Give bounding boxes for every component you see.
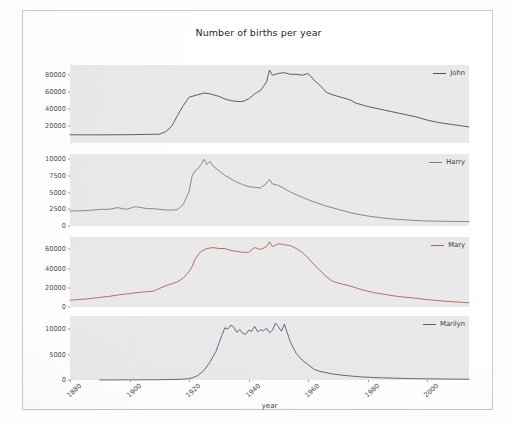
- legend-mary[interactable]: Mary: [431, 241, 465, 249]
- y-tick-label: 10000: [45, 325, 66, 333]
- x-axis-label: year: [70, 402, 469, 410]
- y-tick-label: 40000: [45, 105, 66, 113]
- y-tick-mark: [68, 192, 70, 193]
- legend-label-marilyn: Marilyn: [440, 320, 465, 328]
- y-tick-mark: [68, 226, 70, 227]
- y-tick-label: 80000: [45, 71, 66, 79]
- y-tick-label: 0: [62, 376, 66, 384]
- legend-marilyn[interactable]: Marilyn: [423, 320, 465, 328]
- y-tick-mark: [68, 92, 70, 93]
- y-tick-label: 20000: [45, 284, 66, 292]
- line-path: [70, 70, 469, 135]
- y-tick-mark: [68, 354, 70, 355]
- x-tick-label: 1980: [363, 382, 381, 399]
- x-tick-label: 1920: [184, 382, 202, 399]
- line-path: [100, 323, 469, 380]
- x-axis: year 1880190019201940196019802000: [70, 380, 469, 410]
- chart-title: Number of births per year: [23, 27, 494, 38]
- x-tick-mark: [70, 380, 71, 382]
- y-tick-label: 10000: [45, 155, 66, 163]
- x-tick-mark: [249, 380, 250, 382]
- y-tick-label: 40000: [45, 265, 66, 273]
- screenshot-root: Number of births per year John 200004000…: [0, 0, 515, 423]
- series-line-mary: [70, 237, 469, 307]
- y-tick-label: 5000: [49, 351, 66, 359]
- legend-label-mary: Mary: [448, 241, 465, 249]
- x-tick-mark: [308, 380, 309, 382]
- y-tick-mark: [68, 307, 70, 308]
- y-tick-mark: [68, 159, 70, 160]
- series-line-marilyn: [70, 316, 469, 380]
- y-tick-mark: [68, 176, 70, 177]
- y-tick-label: 7500: [49, 172, 66, 180]
- legend-harry[interactable]: Harry: [429, 158, 465, 166]
- legend-swatch-marilyn: [423, 324, 436, 325]
- legend-label-john: John: [450, 69, 465, 77]
- x-tick-label: 1960: [304, 382, 322, 399]
- line-path: [70, 159, 469, 221]
- x-tick-mark: [427, 380, 428, 382]
- legend-john[interactable]: John: [433, 69, 465, 77]
- x-tick-label: 1900: [125, 382, 143, 399]
- legend-swatch-harry: [429, 162, 442, 163]
- panel-mary: Mary 0200004000060000: [70, 237, 469, 307]
- y-tick-mark: [68, 329, 70, 330]
- figure-card: Number of births per year John 200004000…: [22, 10, 493, 410]
- y-tick-mark: [68, 126, 70, 127]
- y-tick-label: 20000: [45, 122, 66, 130]
- y-tick-mark: [68, 268, 70, 269]
- y-tick-label: 0: [62, 303, 66, 311]
- y-tick-mark: [68, 249, 70, 250]
- births-figure: Number of births per year John 200004000…: [23, 11, 494, 411]
- y-tick-label: 0: [62, 222, 66, 230]
- line-path: [70, 242, 469, 303]
- y-tick-mark: [68, 75, 70, 76]
- legend-label-harry: Harry: [446, 158, 465, 166]
- series-line-john: [70, 65, 469, 143]
- y-tick-label: 2500: [49, 205, 66, 213]
- x-tick-mark: [368, 380, 369, 382]
- y-tick-mark: [68, 109, 70, 110]
- series-line-harry: [70, 154, 469, 226]
- x-tick-mark: [130, 380, 131, 382]
- x-tick-mark: [189, 380, 190, 382]
- y-tick-label: 60000: [45, 88, 66, 96]
- panel-john: John 20000400006000080000: [70, 65, 469, 143]
- x-tick-label: 1880: [65, 382, 83, 399]
- panel-harry: Harry 025005000750010000: [70, 154, 469, 226]
- y-tick-mark: [68, 209, 70, 210]
- legend-swatch-mary: [431, 245, 444, 246]
- y-tick-label: 60000: [45, 245, 66, 253]
- y-tick-label: 5000: [49, 189, 66, 197]
- x-tick-label: 2000: [423, 382, 441, 399]
- x-tick-label: 1940: [244, 382, 262, 399]
- panel-marilyn: Marilyn 0500010000: [70, 316, 469, 380]
- y-tick-mark: [68, 287, 70, 288]
- legend-swatch-john: [433, 73, 446, 74]
